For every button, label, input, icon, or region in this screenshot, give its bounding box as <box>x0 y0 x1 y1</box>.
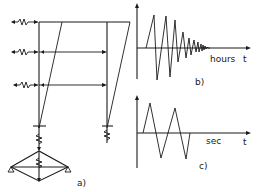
panel-b-t-symbol: t <box>243 54 247 64</box>
arrow-head-icon <box>102 50 107 54</box>
panel-b-x-unit: hours <box>210 54 236 64</box>
arrow-head-icon <box>135 95 139 100</box>
spring-icon <box>11 19 38 25</box>
arrow-head-icon <box>246 46 251 50</box>
panel-b-label: b) <box>195 77 204 87</box>
lateral-springs <box>11 19 38 88</box>
diagram-canvas: a) hours t b) sec t c) <box>0 0 262 192</box>
arrow-head-icon <box>135 3 139 8</box>
spring-icon <box>13 82 38 88</box>
deflected-line-left <box>39 22 62 128</box>
pulse-oscillation-curve <box>143 103 190 159</box>
arrow-head-icon <box>41 50 44 54</box>
panel-c-x-unit: sec <box>206 136 221 146</box>
panel-c-chart <box>135 95 251 168</box>
left-base-support <box>8 126 71 182</box>
deflected-line-right <box>107 22 130 128</box>
arrow-head-icon <box>246 131 251 135</box>
arrow-head-icon <box>102 83 107 87</box>
spring-icon <box>11 49 38 55</box>
frame-structure <box>39 22 130 128</box>
panel-b-chart <box>135 3 251 80</box>
panel-c-t-symbol: t <box>243 137 247 147</box>
panel-c-label: c) <box>199 161 207 171</box>
right-base-support <box>102 126 113 143</box>
arrow-head-icon <box>41 83 44 87</box>
panel-a-label: a) <box>77 178 86 188</box>
